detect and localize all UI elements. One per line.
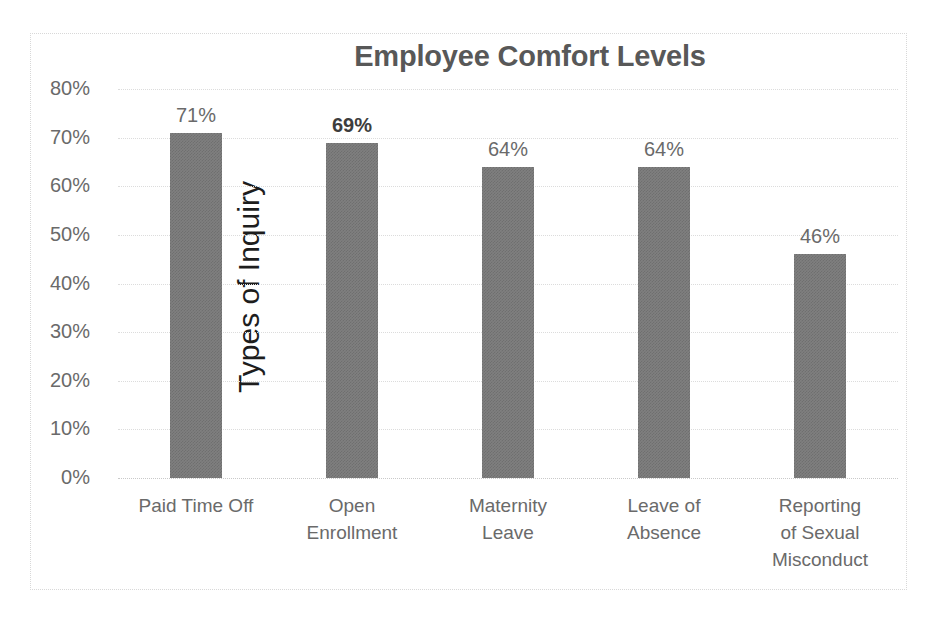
x-axis-category-label: Reportingof SexualMisconduct [742,492,898,573]
bar-slot: 71% [118,89,274,478]
bar-value-label: 64% [644,138,684,161]
y-axis-tick-label: 30% [28,320,90,343]
bar[interactable] [482,167,534,478]
x-axis-category-label-line: Paid Time Off [118,492,274,519]
bar[interactable] [170,133,222,478]
x-axis-category-label-line: Open [274,492,430,519]
bar-series: 71%69%64%64%46% [118,89,898,478]
x-axis-category-label-line: Misconduct [742,546,898,573]
y-axis-tick-labels: 80%70%60%50%40%30%20%10%0% [28,89,90,478]
bar-slot: 64% [586,89,742,478]
bar-slot: 46% [742,89,898,478]
bar[interactable] [638,167,690,478]
bar-slot: 64% [430,89,586,478]
x-axis-category-label-line: Absence [586,519,742,546]
y-axis-tick-label: 70% [28,126,90,149]
x-axis-category-label-line: Leave of [586,492,742,519]
x-axis-category-label-line: of Sexual [742,519,898,546]
gridline [118,478,898,479]
x-axis-category-label-line: Reporting [742,492,898,519]
bar-slot: 69% [274,89,430,478]
x-axis-category-label: OpenEnrollment [274,492,430,546]
x-axis-category-label-line: Leave [430,519,586,546]
y-axis-tick-label: 80% [28,77,90,100]
bar-value-label: 46% [800,225,840,248]
bar[interactable] [326,143,378,479]
chart-title: Employee Comfort Levels [180,40,880,73]
y-axis-tick-label: 50% [28,223,90,246]
y-axis-tick-label: 20% [28,369,90,392]
x-axis-category-label: Paid Time Off [118,492,274,519]
y-axis-tick-label: 60% [28,174,90,197]
x-axis-category-label-line: Enrollment [274,519,430,546]
x-axis-category-label: MaternityLeave [430,492,586,546]
bar-value-label: 64% [488,138,528,161]
y-axis-tick-label: 10% [28,417,90,440]
x-axis-category-label-line: Maternity [430,492,586,519]
y-axis-tick-label: 40% [28,272,90,295]
x-axis-category-labels: Paid Time OffOpenEnrollmentMaternityLeav… [118,492,898,588]
bar-value-label: 71% [176,104,216,127]
bar[interactable] [794,254,846,478]
plot-area: 71%69%64%64%46% [118,89,898,478]
x-axis-category-label: Leave ofAbsence [586,492,742,546]
bar-value-label: 69% [332,114,372,137]
y-axis-tick-label: 0% [28,466,90,489]
chart-container: Employee Comfort Levels Types of Inquiry… [0,0,930,618]
